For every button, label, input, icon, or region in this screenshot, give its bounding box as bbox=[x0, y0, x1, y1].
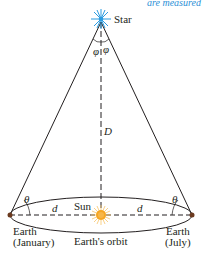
orbit-label: Earth's orbit bbox=[74, 235, 128, 247]
half-baseline-label-left: d bbox=[52, 202, 58, 214]
phi-arc-right bbox=[101, 39, 109, 42]
sightline-january bbox=[10, 22, 101, 215]
earth-july-line2: (July) bbox=[165, 236, 191, 249]
theta-label-right: θ bbox=[172, 193, 178, 205]
earth-july-dot bbox=[190, 213, 195, 218]
cutoff-caption: are measured bbox=[147, 0, 202, 8]
phi-label-left: φ bbox=[93, 45, 99, 57]
half-baseline-label-right: d bbox=[137, 202, 143, 214]
star-icon bbox=[91, 9, 111, 29]
star-label: Star bbox=[114, 13, 132, 25]
sun-icon bbox=[91, 205, 111, 225]
parallax-diagram: are measured φ φ θ θ D d d Sun bbox=[0, 0, 203, 259]
earth-january-dot bbox=[8, 213, 13, 218]
distance-label: D bbox=[103, 125, 112, 137]
earth-january-line2: (January) bbox=[13, 236, 55, 249]
sightline-july bbox=[101, 22, 192, 215]
phi-arc-left bbox=[93, 39, 101, 42]
theta-label-left: θ bbox=[24, 193, 30, 205]
sun-label: Sun bbox=[74, 200, 92, 212]
phi-label-right: φ bbox=[103, 43, 109, 55]
